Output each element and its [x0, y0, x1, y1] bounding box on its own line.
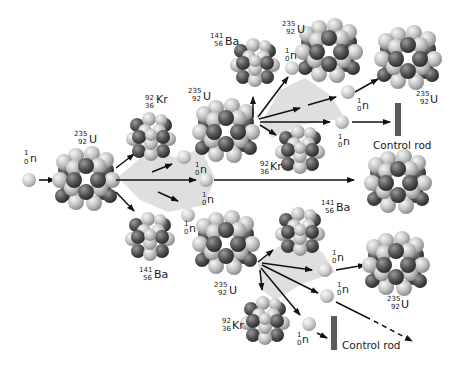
uranium-nucleus-5: 235 92 U — [374, 25, 442, 108]
uranium-nucleus-1: 235 92 U — [52, 121, 120, 211]
control-rod-1: Control rod — [373, 103, 431, 151]
uranium-nucleus-3: 235 92 U — [192, 210, 260, 299]
barium-nucleus-1: 141 56 Ba — [125, 212, 175, 284]
incoming-neutron: 1 0 n — [22, 140, 37, 187]
svg-text:235 92 U: 235 92 U — [74, 121, 97, 148]
svg-text:92 36 Kr: 92 36 Kr — [222, 308, 244, 335]
svg-text:1 0 n: 1 0 n — [337, 272, 349, 299]
neutron-2a: 1 0 n — [285, 38, 299, 75]
svg-text:141 56 Ba: 141 56 Ba — [321, 190, 350, 217]
svg-text:235 92 U: 235 92 U — [188, 78, 211, 105]
svg-text:1 0 n: 1 0 n — [332, 240, 344, 267]
neutron-3c: 1 0 n — [297, 317, 316, 349]
control-rod-2: Control rod — [331, 316, 400, 351]
neutron-2b: 1 0 n — [341, 85, 369, 115]
svg-text:1 0 n: 1 0 n — [357, 88, 369, 115]
barium-nucleus-2: 141 56 Ba — [210, 23, 280, 87]
neutron-1b: 1 0 n — [199, 173, 214, 209]
krypton-nucleus-3: 92 36 Kr — [222, 296, 290, 345]
svg-text:1 0 n: 1 0 n — [285, 38, 297, 65]
svg-text:92 36 Kr: 92 36 Kr — [145, 85, 168, 112]
dashed-escape-arrow — [374, 321, 412, 341]
svg-text:1 0 n: 1 0 n — [24, 140, 37, 168]
fission-diagram: 1 0 n 235 92 U 92 36 Kr 141 56 Ba — [0, 0, 458, 365]
svg-text:235 92 U: 235 92 U — [214, 272, 237, 299]
svg-text:141 56 Ba: 141 56 Ba — [210, 23, 239, 50]
svg-text:141 56 Ba: 141 56 Ba — [139, 257, 168, 284]
uranium-nucleus-6 — [364, 149, 432, 214]
uranium-nucleus-7: 235 92 U — [362, 231, 430, 313]
uranium-nucleus-2: 235 92 U — [188, 78, 260, 163]
neutron-2c: 1 0 n — [335, 115, 350, 151]
neutron-1c: 1 0 n — [181, 208, 196, 238]
svg-text:Control rod: Control rod — [342, 339, 400, 351]
krypton-nucleus-1: 92 36 Kr — [126, 85, 176, 161]
svg-text:235 92 U: 235 92 U — [282, 11, 305, 38]
